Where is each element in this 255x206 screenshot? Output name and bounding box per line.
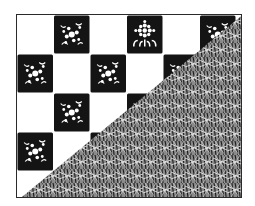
floral-tile [18,133,54,171]
checkerboard-illustration [17,15,242,198]
floral-tile [18,55,54,93]
floral-tile [127,16,163,54]
floral-tile [54,94,90,132]
floral-tile [91,55,127,93]
floral-tile [54,16,90,54]
illustration-frame [16,14,242,198]
